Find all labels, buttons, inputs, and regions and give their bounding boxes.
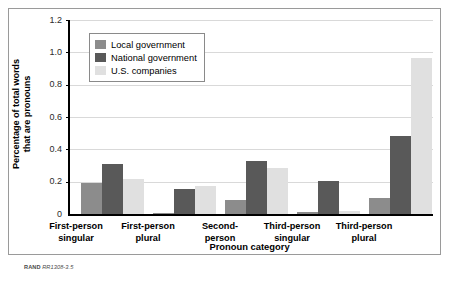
bar-group-third-person-singular bbox=[294, 20, 362, 214]
y-tick-label-0_2: 0.2 bbox=[36, 177, 62, 186]
y-tick-label-0: 0 bbox=[36, 210, 62, 219]
y-tickmark-1_2 bbox=[66, 20, 70, 21]
bar-national-government-0 bbox=[102, 164, 123, 214]
bar-local-government-1 bbox=[153, 213, 174, 214]
bar-local-government-3 bbox=[297, 212, 318, 214]
y-tick-label-0_4: 0.4 bbox=[36, 145, 62, 154]
legend-item-national-government: National government bbox=[95, 51, 197, 64]
bar-local-government-0 bbox=[81, 183, 102, 214]
x-tick-line1: First-person bbox=[49, 221, 103, 231]
x-axis-title: Pronoun category bbox=[68, 241, 431, 252]
figure-bar-chart: Percentage of total words that are prono… bbox=[0, 0, 451, 288]
y-tick-label-1_2: 1.2 bbox=[36, 16, 62, 25]
bar-us-companies-3 bbox=[339, 211, 360, 214]
legend-swatch-local-government bbox=[95, 40, 106, 49]
y-tickmark-0_2 bbox=[66, 182, 70, 183]
y-tickmark-0_8 bbox=[66, 85, 70, 86]
y-tick-label-1_0: 1.0 bbox=[36, 48, 62, 57]
bar-group-second-person bbox=[222, 20, 290, 214]
y-axis-title-line1: Percentage of total words bbox=[11, 59, 23, 169]
bar-group-third-person-plural bbox=[366, 20, 434, 214]
bar-local-government-2 bbox=[225, 200, 246, 214]
y-tick-label-0_6: 0.6 bbox=[36, 113, 62, 122]
x-tick-line1: Third-person bbox=[264, 221, 321, 231]
bar-us-companies-0 bbox=[123, 179, 144, 214]
legend: Local government National government U.S… bbox=[89, 33, 205, 82]
bar-us-companies-1 bbox=[195, 186, 216, 214]
y-tickmark-0_6 bbox=[66, 117, 70, 118]
credit-code: RR1308-3.5 bbox=[42, 264, 73, 270]
credit-brand: RAND bbox=[24, 264, 41, 270]
x-tick-line1: Third-person bbox=[336, 221, 393, 231]
legend-item-local-government: Local government bbox=[95, 38, 197, 51]
bar-us-companies-4 bbox=[411, 58, 432, 214]
legend-label-local-government: Local government bbox=[111, 40, 185, 50]
legend-swatch-us-companies bbox=[95, 66, 106, 75]
x-tick-line1: First-person bbox=[121, 221, 175, 231]
y-axis-title-line2: that are pronouns bbox=[22, 76, 34, 152]
legend-label-national-government: National government bbox=[111, 53, 197, 63]
bar-national-government-1 bbox=[174, 189, 195, 214]
y-tickmark-0_4 bbox=[66, 149, 70, 150]
legend-swatch-national-government bbox=[95, 53, 106, 62]
credit-line: RAND RR1308-3.5 bbox=[24, 264, 73, 270]
y-tickmark-1_0 bbox=[66, 52, 70, 53]
y-tick-label-0_8: 0.8 bbox=[36, 80, 62, 89]
legend-item-us-companies: U.S. companies bbox=[95, 64, 197, 77]
bar-national-government-2 bbox=[246, 161, 267, 214]
bar-national-government-4 bbox=[390, 136, 411, 214]
legend-label-us-companies: U.S. companies bbox=[111, 66, 177, 76]
y-axis-title: Percentage of total words that are prono… bbox=[6, 19, 38, 209]
bar-national-government-3 bbox=[318, 181, 339, 214]
bar-local-government-4 bbox=[369, 198, 390, 214]
bar-us-companies-2 bbox=[267, 168, 288, 214]
x-tick-line1: Second- bbox=[202, 221, 238, 231]
